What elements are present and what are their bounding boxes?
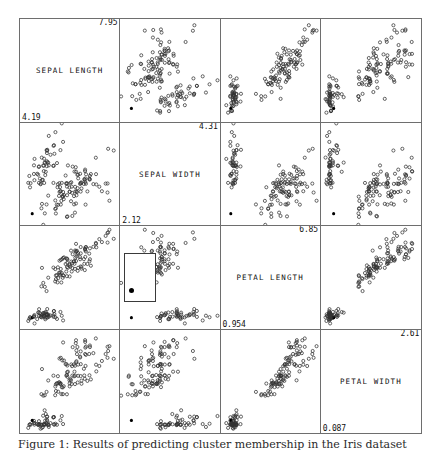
scatter-points bbox=[321, 123, 421, 226]
scatter-points bbox=[221, 330, 320, 434]
splom-diagonal-sepal_length[interactable]: SEPAL LENGTH7.954.19 bbox=[20, 19, 120, 123]
splom-panel-sepal_width-vs-petal_width[interactable] bbox=[321, 123, 421, 227]
axis-max-label: 7.95 bbox=[98, 19, 118, 27]
figure-caption: Figure 1: Results of predicting cluster … bbox=[18, 437, 428, 452]
axis-max-label: 6.85 bbox=[298, 226, 318, 234]
scatter-points bbox=[221, 19, 320, 122]
splom-panel-sepal_width-vs-petal_length[interactable] bbox=[221, 123, 321, 227]
axis-max-label: 2.61 bbox=[400, 330, 420, 338]
splom-diagonal-sepal_width[interactable]: SEPAL WIDTH4.312.12 bbox=[120, 123, 220, 227]
axis-min-label: 0.087 bbox=[322, 424, 347, 433]
axis-max-label: 4.31 bbox=[198, 123, 218, 131]
axis-min-label: 0.954 bbox=[222, 320, 247, 329]
splom-diagonal-petal_length[interactable]: PETAL LENGTH6.850.954 bbox=[221, 226, 321, 330]
splom-panel-sepal_length-vs-sepal_width[interactable] bbox=[120, 19, 220, 123]
splom-panel-petal_length-vs-sepal_width[interactable] bbox=[120, 226, 220, 330]
splom-diagonal-petal_width[interactable]: PETAL WIDTH2.610.087 bbox=[321, 330, 421, 434]
brushed-point bbox=[129, 288, 134, 293]
splom-grid: SEPAL LENGTH7.954.19SEPAL WIDTH4.312.12P… bbox=[19, 18, 422, 434]
figure-scatterplot-matrix: SEPAL LENGTH7.954.19SEPAL WIDTH4.312.12P… bbox=[0, 0, 441, 452]
scatter-points bbox=[20, 123, 119, 226]
scatter-points bbox=[20, 330, 119, 434]
splom-panel-petal_length-vs-sepal_length[interactable] bbox=[20, 226, 120, 330]
scatter-points bbox=[120, 19, 219, 122]
axis-min-label: 2.12 bbox=[121, 216, 141, 225]
variable-label: PETAL WIDTH bbox=[321, 377, 421, 386]
axis-min-label: 4.19 bbox=[21, 113, 41, 122]
splom-panel-petal_width-vs-sepal_length[interactable] bbox=[20, 330, 120, 434]
splom-panel-sepal_width-vs-sepal_length[interactable] bbox=[20, 123, 120, 227]
scatter-points bbox=[321, 226, 421, 329]
scatter-points bbox=[20, 226, 119, 329]
brush-selection-box[interactable] bbox=[124, 253, 156, 302]
scatter-points bbox=[120, 330, 219, 434]
variable-label: SEPAL WIDTH bbox=[120, 169, 219, 178]
scatter-points bbox=[321, 19, 421, 122]
splom-panel-sepal_length-vs-petal_length[interactable] bbox=[221, 19, 321, 123]
splom-panel-petal_width-vs-sepal_width[interactable] bbox=[120, 330, 220, 434]
variable-label: PETAL LENGTH bbox=[221, 273, 320, 282]
splom-panel-petal_length-vs-petal_width[interactable] bbox=[321, 226, 421, 330]
splom-panel-petal_width-vs-petal_length[interactable] bbox=[221, 330, 321, 434]
variable-label: SEPAL LENGTH bbox=[20, 66, 119, 75]
scatter-points bbox=[221, 123, 320, 226]
splom-panel-sepal_length-vs-petal_width[interactable] bbox=[321, 19, 421, 123]
